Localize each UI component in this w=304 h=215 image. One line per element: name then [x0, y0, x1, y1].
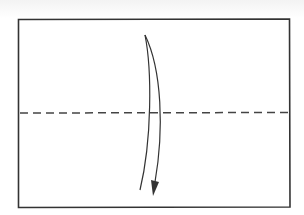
valley-fold-line [20, 113, 289, 114]
diagram-svg [0, 0, 304, 215]
fold-diagram [0, 0, 304, 215]
